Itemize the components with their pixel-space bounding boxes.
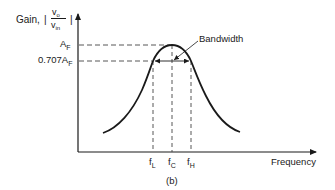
x-tick-fc: fC <box>168 157 176 167</box>
bandwidth-leader <box>174 41 198 60</box>
numerator: vo <box>52 7 60 17</box>
gain-prefix: Gain, <box>16 15 40 25</box>
denominator: vin <box>51 20 60 30</box>
abs-close: | <box>70 15 73 25</box>
y-tick-0707af: 0.707AF <box>38 55 72 65</box>
response-curve <box>103 45 240 133</box>
abs-open: | <box>44 15 47 25</box>
x-axis-label: Frequency <box>271 157 316 167</box>
y-tick-af: AF <box>60 39 71 49</box>
figure-caption: (b) <box>166 176 178 186</box>
bandwidth-annotation: Bandwidth <box>199 34 243 44</box>
x-tick-fl: fL <box>149 157 156 167</box>
fraction-bar <box>51 18 66 19</box>
x-tick-fh: fH <box>187 157 195 167</box>
